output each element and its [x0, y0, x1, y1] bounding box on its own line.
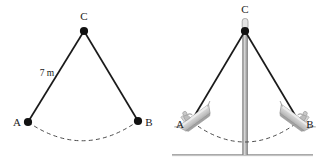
left-panel: C A B 7 m [13, 10, 153, 141]
right-label-A: A [176, 118, 184, 130]
figure-root: C A B 7 m [0, 0, 326, 168]
right-panel: C A B [170, 3, 319, 156]
right-label-B: B [306, 118, 313, 130]
right-segment-CA [192, 31, 245, 120]
left-point-B [134, 117, 142, 125]
left-length-label: 7 m [40, 68, 55, 78]
left-segment-CB [84, 31, 138, 121]
swing-boat-left [170, 96, 217, 137]
left-label-B: B [145, 116, 152, 128]
left-label-A: A [13, 116, 21, 128]
left-point-C [80, 27, 88, 35]
left-label-C: C [80, 10, 87, 22]
right-point-C [241, 27, 249, 35]
left-swing-arc [28, 121, 138, 141]
left-point-A [24, 118, 32, 126]
right-label-C: C [241, 3, 248, 15]
swing-boat-right [273, 96, 320, 137]
left-segment-CA [28, 31, 84, 122]
support-pole [243, 31, 248, 155]
diagram-canvas: C A B 7 m [0, 0, 326, 168]
right-segment-CB [245, 31, 298, 120]
